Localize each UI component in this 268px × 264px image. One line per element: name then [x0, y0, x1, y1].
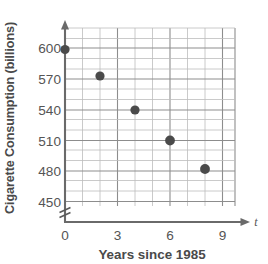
- data-point: [95, 71, 104, 80]
- y-tick-450: 450: [38, 195, 61, 210]
- y-tick-600: 600: [38, 41, 61, 56]
- data-point: [200, 164, 210, 174]
- data-point: [165, 136, 175, 146]
- x-tick-9: 9: [219, 228, 227, 243]
- x-axis: [64, 218, 250, 226]
- y-axis-arrow-icon: [61, 20, 69, 30]
- grid-vertical-major: [118, 28, 223, 206]
- chart-canvas: 600 570 540 510 480 450 0 3 6 9 t Cigare…: [0, 0, 268, 264]
- x-axis-arrow-icon: [241, 218, 251, 226]
- data-point: [130, 105, 139, 114]
- data-point: [60, 45, 69, 54]
- y-tick-480: 480: [38, 164, 61, 179]
- x-axis-variable-label: t: [254, 215, 258, 229]
- grid-horizontal-major: [65, 48, 235, 202]
- scatter-chart: 600 570 540 510 480 450 0 3 6 9 t Cigare…: [0, 0, 268, 264]
- x-tick-3: 3: [114, 228, 122, 243]
- x-axis-title: Years since 1985: [98, 247, 206, 262]
- y-tick-510: 510: [38, 134, 61, 149]
- y-tick-labels: 600 570 540 510 480 450: [38, 41, 61, 210]
- y-axis-title: Cigarette Consumption (billions): [3, 22, 17, 214]
- y-tick-540: 540: [38, 103, 61, 118]
- x-tick-0: 0: [61, 228, 69, 243]
- y-tick-570: 570: [38, 72, 61, 87]
- grid-vertical-minor: [83, 28, 223, 206]
- x-tick-labels: 0 3 6 9: [61, 228, 226, 243]
- x-tick-6: 6: [166, 228, 174, 243]
